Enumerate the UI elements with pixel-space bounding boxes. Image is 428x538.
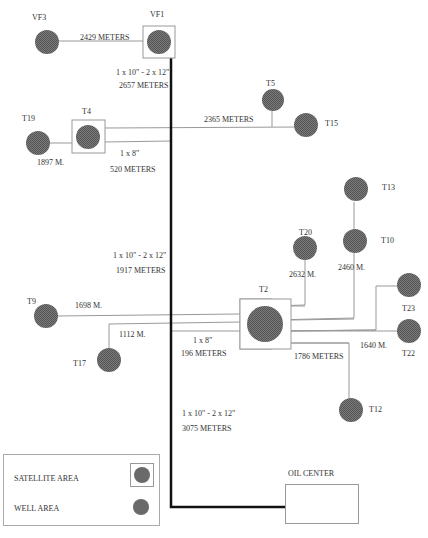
edge-label-mid-length: 1917 METERS — [116, 267, 166, 275]
node-label-t17: T17 — [73, 360, 86, 368]
well-t4 — [76, 125, 100, 149]
pipeline-branches — [40, 41, 398, 398]
edge-label-t2-length: 196 METERS — [181, 350, 227, 358]
legend: SATELLITE AREA WELL AREA — [3, 454, 160, 526]
node-label-t2: T2 — [259, 286, 268, 294]
edge-label-t9: 1698 M. — [75, 302, 102, 310]
legend-satellite-well-icon — [134, 467, 150, 483]
well-t22 — [397, 319, 421, 343]
edge-label-t12: 1786 METERS — [294, 353, 344, 361]
well-t23 — [397, 273, 421, 297]
edge-label-t2-spec: 1 x 8" — [193, 337, 212, 345]
node-label-t4: T4 — [82, 108, 91, 116]
node-label-t10: T10 — [381, 237, 394, 245]
edge-label-t22-t23: 1640 M. — [360, 342, 387, 350]
well-t10 — [343, 229, 367, 253]
oil-center-box — [285, 484, 359, 524]
well-t5 — [262, 89, 284, 111]
node-label-t22: T22 — [402, 350, 415, 358]
node-label-oil-center: OIL CENTER — [288, 470, 334, 478]
legend-satellite-swatch — [130, 463, 154, 487]
well-t2 — [247, 306, 283, 342]
node-label-t12: T12 — [369, 406, 382, 414]
well-vf3 — [35, 30, 59, 54]
well-t19 — [26, 131, 50, 155]
legend-well-icon — [133, 499, 149, 515]
well-t12 — [339, 398, 363, 422]
edge-label-t4-t15: 2365 METERS — [204, 116, 254, 124]
edge-label-vf1-length: 2657 METERS — [119, 82, 169, 90]
node-label-t23: T23 — [402, 305, 415, 313]
edge-label-vf3-vf1: 2429 METERS — [80, 34, 130, 42]
main-trunk-pipe — [171, 57, 285, 507]
line-t4-t15 — [105, 127, 302, 128]
node-label-t20: T20 — [299, 229, 312, 237]
well-t17 — [97, 348, 121, 372]
edge-label-t19-t4: 1897 M. — [37, 159, 64, 167]
well-vf1 — [147, 30, 171, 54]
legend-label-well-area: WELL AREA — [14, 504, 59, 513]
edge-label-mid-spec: 1 x 10" - 2 x 12" — [113, 252, 166, 260]
node-label-vf3: VF3 — [32, 14, 46, 22]
node-label-t19: T19 — [22, 115, 35, 123]
node-label-t13: T13 — [382, 184, 395, 192]
node-label-t15: T15 — [325, 120, 338, 128]
edge-label-t4-length: 520 METERS — [110, 166, 156, 174]
node-label-vf1: VF1 — [150, 11, 164, 19]
well-t9 — [34, 304, 58, 328]
node-label-t5: T5 — [266, 80, 275, 88]
node-label-t9: T9 — [27, 298, 36, 306]
edge-label-low-length: 3075 METERS — [182, 425, 232, 433]
edge-label-t4-spec: 1 x 8" — [120, 150, 139, 158]
edge-label-low-spec: 1 x 10" - 2 x 12" — [182, 410, 235, 418]
well-t15 — [294, 113, 318, 137]
line-t4-main — [105, 141, 171, 142]
edge-label-t10: 2460 M. — [338, 264, 365, 272]
edge-label-t17: 1112 M. — [119, 331, 146, 339]
edge-label-vf1-spec: 1 x 10" - 2 x 12" — [116, 69, 169, 77]
edge-label-t20: 2632 M. — [289, 271, 316, 279]
well-t20 — [293, 236, 317, 260]
legend-label-satellite-area: SATELLITE AREA — [14, 474, 79, 483]
line-t9-t2 — [56, 314, 240, 316]
well-t13 — [344, 177, 368, 201]
